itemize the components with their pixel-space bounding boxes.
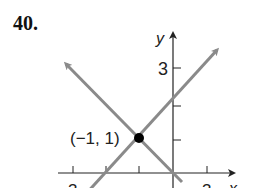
x-tick-label-neg3: −3 — [58, 181, 77, 188]
y-ticks — [173, 68, 181, 140]
graph: y 3 (−1, 1) −3 3 x — [0, 0, 266, 188]
x-ticks — [73, 166, 207, 173]
line-y-eq-x-plus-2 — [84, 50, 217, 188]
x-tick-label-3: 3 — [202, 181, 211, 188]
x-axis-label: x — [228, 180, 238, 188]
point-label: (−1, 1) — [70, 129, 120, 148]
y-axis-label: y — [155, 30, 165, 47]
y-tick-label-3: 3 — [158, 59, 168, 79]
line-y-eq-neg-x — [66, 64, 182, 182]
intersection-point — [134, 133, 144, 143]
